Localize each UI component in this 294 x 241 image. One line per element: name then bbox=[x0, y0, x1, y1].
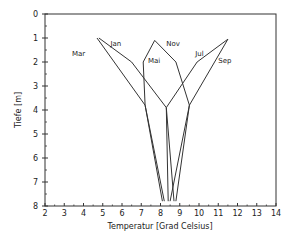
plot-border bbox=[45, 14, 276, 206]
x-tick-label: 13 bbox=[252, 209, 262, 218]
y-axis-ticks: 012345678 bbox=[33, 10, 48, 211]
temperature-depth-chart: 234567891011121314 012345678 MarJanMaiNo… bbox=[0, 0, 294, 241]
series-labels: MarJanMaiNovJulSep bbox=[72, 40, 232, 65]
series-label-mai: Mai bbox=[148, 57, 160, 65]
y-tick-label: 5 bbox=[33, 130, 38, 139]
x-tick-label: 3 bbox=[62, 209, 67, 218]
series-label-sep: Sep bbox=[218, 57, 232, 65]
series-label-jul: Jul bbox=[194, 50, 204, 58]
x-tick-label: 2 bbox=[42, 209, 47, 218]
x-tick-label: 4 bbox=[81, 209, 86, 218]
plot-frame bbox=[45, 14, 276, 206]
series-label-mar: Mar bbox=[72, 50, 85, 58]
y-axis-label: Tiefe [m] bbox=[14, 92, 23, 129]
x-tick-label: 9 bbox=[177, 209, 182, 218]
y-tick-label: 7 bbox=[33, 178, 38, 187]
y-tick-label: 4 bbox=[33, 106, 38, 115]
series-lines bbox=[97, 38, 228, 201]
x-tick-label: 8 bbox=[158, 209, 163, 218]
x-axis-ticks: 234567891011121314 bbox=[42, 203, 281, 218]
y-tick-label: 8 bbox=[33, 202, 38, 211]
x-tick-label: 11 bbox=[213, 209, 223, 218]
y-tick-label: 6 bbox=[33, 154, 38, 163]
x-tick-label: 12 bbox=[232, 209, 242, 218]
y-tick-label: 2 bbox=[33, 58, 38, 67]
y-tick-label: 3 bbox=[33, 82, 38, 91]
x-axis-label: Temperatur [Grad Celsius] bbox=[106, 222, 212, 231]
x-tick-label: 5 bbox=[100, 209, 105, 218]
series-label-nov: Nov bbox=[166, 40, 180, 48]
y-tick-label: 0 bbox=[33, 10, 38, 19]
x-tick-label: 14 bbox=[271, 209, 281, 218]
series-line-jan bbox=[99, 38, 174, 201]
x-tick-label: 7 bbox=[139, 209, 144, 218]
x-tick-label: 10 bbox=[194, 209, 204, 218]
x-tick-label: 6 bbox=[119, 209, 124, 218]
series-label-jan: Jan bbox=[109, 40, 121, 48]
y-tick-label: 1 bbox=[33, 34, 38, 43]
